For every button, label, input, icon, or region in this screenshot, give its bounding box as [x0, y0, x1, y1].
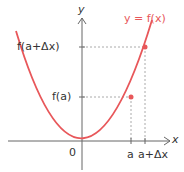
y-axis-label: y: [78, 4, 85, 15]
point-a-dx: [143, 45, 148, 50]
x-tick-label-a-dx: a+Δx: [138, 149, 168, 160]
diagram-canvas: [0, 0, 184, 172]
x-axis-label: x: [172, 134, 179, 145]
y-tick-label-f-a-dx: f(a+Δx): [17, 41, 59, 52]
curve-y-f-x: [16, 20, 152, 138]
point-a: [129, 95, 134, 100]
curve-label: y = f(x): [124, 13, 166, 24]
origin-label: 0: [69, 147, 76, 158]
x-tick-label-a: a: [127, 149, 134, 160]
y-tick-label-f-a: f(a): [52, 91, 71, 102]
